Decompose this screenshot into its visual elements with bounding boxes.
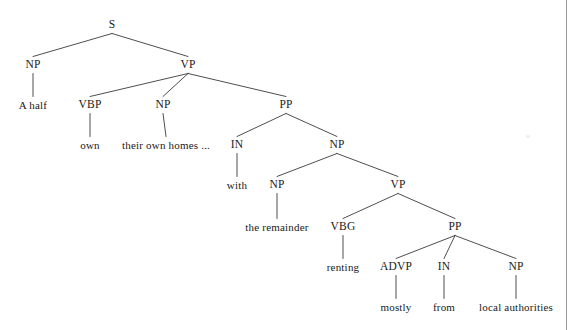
tree-node-advp: ADVP	[380, 261, 412, 273]
tree-node-pp: PP	[279, 99, 292, 111]
tree-leaf-the-remainder: the remainder	[245, 222, 308, 233]
tree-edge	[398, 194, 455, 219]
tree-edge	[277, 154, 337, 177]
tree-leaf-local-authorities: local authorities	[479, 302, 553, 313]
tree-node-s: S	[109, 19, 116, 31]
scan-artifact-speck	[526, 135, 530, 138]
tree-edge	[337, 154, 398, 177]
tree-edge	[163, 114, 166, 137]
tree-leaf-from: from	[433, 302, 455, 313]
parse-tree-figure: SNPVPA halfVBPNPPPowntheir own homes ...…	[0, 0, 577, 330]
tree-node-vbg: VBG	[331, 221, 356, 233]
tree-node-vp: VP	[390, 179, 405, 191]
tree-leaf-a-half: A half	[19, 100, 47, 111]
tree-node-in: IN	[231, 139, 244, 151]
tree-node-vbp: VBP	[79, 99, 102, 111]
tree-edge	[286, 114, 337, 137]
tree-edge	[188, 74, 286, 97]
tree-edge	[90, 74, 188, 97]
tree-node-pp: PP	[448, 221, 461, 233]
tree-edge	[343, 194, 398, 219]
tree-leaf-mostly: mostly	[380, 302, 411, 313]
tree-node-np: NP	[25, 59, 40, 71]
tree-edge	[396, 236, 455, 259]
tree-edge	[455, 236, 516, 259]
tree-edge	[33, 34, 112, 57]
tree-node-np: NP	[155, 99, 170, 111]
tree-leaf-own: own	[80, 140, 100, 151]
tree-node-np: NP	[329, 139, 344, 151]
tree-node-np: NP	[269, 179, 284, 191]
tree-leaf-with: with	[227, 180, 247, 191]
tree-node-vp: VP	[180, 59, 195, 71]
tree-edge	[112, 34, 188, 57]
tree-node-np: NP	[508, 261, 523, 273]
tree-leaf-their-own-homes: their own homes ...	[122, 140, 210, 151]
tree-leaf-renting: renting	[327, 262, 360, 273]
parse-tree-edges	[0, 0, 577, 330]
tree-node-in: IN	[438, 261, 451, 273]
tree-edge	[237, 114, 286, 137]
right-margin-rule	[566, 0, 567, 330]
tree-edge	[163, 74, 188, 97]
